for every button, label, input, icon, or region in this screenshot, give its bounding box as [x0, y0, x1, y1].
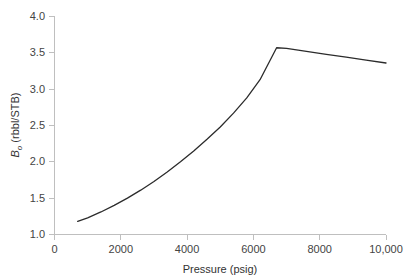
svg-text:Bo (rbbl/STB): Bo (rbbl/STB) — [9, 93, 24, 158]
x-axis-title: Pressure (psig) — [183, 263, 258, 275]
y-tick-label-2: 2.0 — [30, 155, 45, 167]
x-tick-label-0: 0 — [51, 243, 57, 255]
line-chart: 1.0 1.5 2.0 2.5 3.0 3.5 4.0 0 2000 4000 … — [0, 0, 405, 280]
x-tick-label-5: 10,000 — [369, 243, 403, 255]
y-tick-label-0: 1.0 — [30, 228, 45, 240]
y-tick-label-1: 1.5 — [30, 192, 45, 204]
x-tick-label-4: 8000 — [307, 243, 331, 255]
x-axis-tick-labels: 0 2000 4000 6000 8000 10,000 — [51, 243, 402, 255]
y-tick-label-3: 2.5 — [30, 119, 45, 131]
x-tick-label-2: 4000 — [175, 243, 199, 255]
series-line-oil-fvf — [78, 48, 386, 222]
y-tick-label-4: 3.0 — [30, 83, 45, 95]
x-axis-ticks — [55, 235, 387, 241]
x-tick-label-1: 2000 — [109, 243, 133, 255]
x-tick-label-3: 6000 — [241, 243, 265, 255]
y-axis-title-units: (rbbl/STB) — [9, 93, 21, 146]
y-axis-title: Bo (rbbl/STB) — [9, 93, 24, 158]
y-tick-label-6: 4.0 — [30, 10, 45, 22]
y-axis-tick-labels: 1.0 1.5 2.0 2.5 3.0 3.5 4.0 — [30, 10, 45, 240]
y-axis-title-symbol: B — [9, 150, 21, 157]
chart-container: 1.0 1.5 2.0 2.5 3.0 3.5 4.0 0 2000 4000 … — [0, 0, 405, 280]
y-tick-label-5: 3.5 — [30, 46, 45, 58]
y-axis-ticks — [49, 17, 55, 235]
